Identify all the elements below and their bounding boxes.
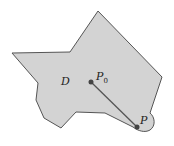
- diagram-canvas: D P0 P: [0, 0, 174, 146]
- point-p: [135, 125, 140, 130]
- region-diagram: D P0 P: [0, 0, 174, 146]
- label-p: P: [139, 114, 148, 127]
- point-p0: [89, 80, 94, 85]
- label-d: D: [60, 75, 70, 88]
